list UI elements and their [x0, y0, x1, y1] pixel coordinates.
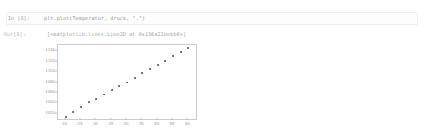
jupyter-notebook-cell: In [8]: plt.plot(Temperatur, druck, ".")…: [0, 0, 424, 139]
data-point: [180, 51, 182, 53]
output-repr-text: [<matplotlib.lines.Line2D at 0x196a22beb…: [47, 30, 186, 39]
data-point: [95, 98, 97, 100]
data-point: [149, 68, 151, 70]
x-tick-label: 40: [124, 121, 129, 127]
x-tick-mark: [156, 118, 157, 120]
y-tick-label: 1040: [45, 99, 55, 105]
y-tick-label: 1100: [45, 68, 55, 74]
y-tick-mark: [55, 81, 57, 82]
data-point: [88, 101, 90, 103]
x-tick-label: 35: [108, 121, 113, 127]
y-tick-mark: [55, 102, 57, 103]
y-tick-mark: [55, 50, 57, 51]
x-tick-mark: [187, 118, 188, 120]
data-point: [103, 94, 105, 96]
y-tick-mark: [55, 112, 57, 113]
x-tick-mark: [95, 118, 96, 120]
x-tick-mark: [126, 118, 127, 120]
x-tick-label: 60: [185, 121, 190, 127]
matplotlib-figure: 1020104010601080110011201140 20253035404…: [38, 41, 208, 137]
data-point: [157, 64, 159, 66]
y-tick-label: 1140: [45, 47, 55, 53]
x-tick-label: 45: [139, 121, 144, 127]
x-tick-mark: [172, 118, 173, 120]
data-point: [141, 72, 143, 74]
x-tick-label: 55: [170, 121, 175, 127]
x-tick-label: 30: [93, 121, 98, 127]
y-tick-label: 1120: [45, 58, 55, 64]
data-point: [72, 111, 74, 113]
x-tick-mark: [141, 118, 142, 120]
code-text[interactable]: plt.plot(Temperatur, druck, "."): [44, 14, 145, 23]
y-tick-label: 1020: [45, 110, 55, 116]
y-tick-label: 1080: [45, 79, 55, 85]
data-point: [80, 106, 82, 108]
data-point: [187, 47, 189, 49]
data-point: [126, 82, 128, 84]
y-tick-mark: [55, 91, 57, 92]
data-point: [172, 56, 174, 58]
y-tick-mark: [55, 60, 57, 61]
data-point: [164, 60, 166, 62]
data-point: [134, 77, 136, 79]
x-tick-mark: [64, 118, 65, 120]
data-point: [118, 85, 120, 87]
x-tick-label: 20: [62, 121, 67, 127]
plot-axes: [57, 44, 197, 120]
x-tick-mark: [80, 118, 81, 120]
x-tick-label: 50: [154, 121, 159, 127]
input-prompt-label: In [8]:: [8, 14, 42, 23]
x-tick-label: 25: [78, 121, 83, 127]
x-tick-mark: [110, 118, 111, 120]
data-point: [111, 89, 113, 91]
y-tick-mark: [55, 71, 57, 72]
output-prompt-label: Out[8]:: [4, 30, 44, 39]
y-tick-label: 1060: [45, 89, 55, 95]
